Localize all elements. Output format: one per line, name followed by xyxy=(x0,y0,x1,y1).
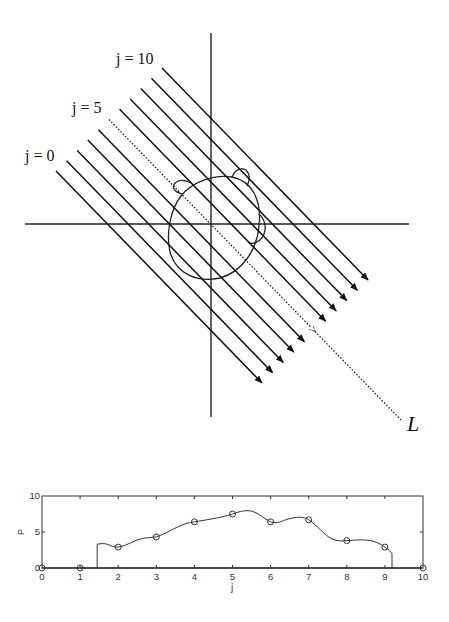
x-tick-labels: 0 1 2 3 4 5 6 7 8 9 10 xyxy=(39,571,428,582)
object-body xyxy=(168,176,259,279)
x-axis-label: j xyxy=(230,582,233,593)
svg-text:10: 10 xyxy=(29,490,40,501)
line-L-dotted xyxy=(315,332,401,421)
ray-j6 xyxy=(120,109,326,321)
svg-text:1: 1 xyxy=(77,571,82,582)
svg-text:8: 8 xyxy=(344,571,349,582)
coordinate-axes xyxy=(25,33,409,417)
svg-text:7: 7 xyxy=(306,571,311,582)
label-j0: j = 0 xyxy=(24,147,54,165)
object-left-ear xyxy=(173,180,191,194)
svg-text:5: 5 xyxy=(35,526,40,537)
svg-text:6: 6 xyxy=(268,571,273,582)
figure-canvas: j = 10 j = 5 j = 0 L 0 1 2 3 4 5 6 7 xyxy=(0,0,449,622)
ray-j5-dotted xyxy=(109,120,315,332)
svg-text:2: 2 xyxy=(116,571,121,582)
y-tick-labels: 0 5 10 xyxy=(29,490,40,573)
projection-curve xyxy=(97,511,392,568)
label-j10: j = 10 xyxy=(115,50,153,68)
svg-text:9: 9 xyxy=(382,571,387,582)
svg-text:4: 4 xyxy=(192,571,197,582)
label-L: L xyxy=(406,411,419,436)
svg-text:0: 0 xyxy=(39,571,44,582)
svg-text:5: 5 xyxy=(230,571,235,582)
ray-j4 xyxy=(98,130,304,342)
y-axis-label: P xyxy=(16,529,26,535)
projection-chart: 0 1 2 3 4 5 6 7 8 9 10 0 5 10 j P xyxy=(16,490,428,593)
x-ticks xyxy=(42,496,423,568)
rays xyxy=(56,68,401,420)
label-j5: j = 5 xyxy=(71,99,101,117)
plot-frame xyxy=(42,496,423,568)
svg-text:3: 3 xyxy=(154,571,159,582)
svg-text:10: 10 xyxy=(418,571,429,582)
